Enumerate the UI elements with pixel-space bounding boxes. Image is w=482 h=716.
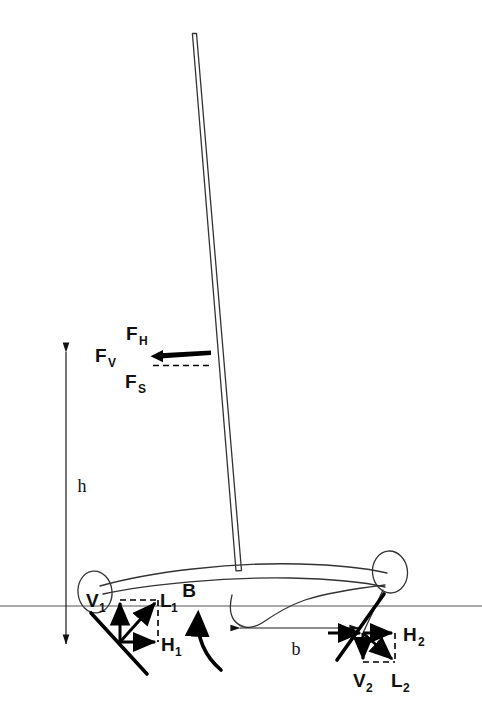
sail-force-shaft [160, 351, 211, 359]
force-h-label: F [126, 323, 138, 344]
force-h-sublabel: H [139, 334, 148, 348]
right-pontoon [370, 549, 409, 594]
mast [192, 33, 241, 571]
sail-force-group: F H F V F S [95, 323, 211, 396]
buoyancy-label: B [182, 580, 196, 601]
l2-label: L [391, 670, 403, 691]
force-v-sublabel: V [108, 356, 116, 370]
v2-label-group: V 2 [353, 670, 373, 695]
force-diagram-svg: h b F H F V F [0, 0, 482, 716]
force-v-label: F [95, 345, 107, 366]
mast-group [192, 33, 241, 571]
vector-l1 [120, 603, 155, 642]
force-v-label-group: F V [95, 345, 116, 370]
h1-label: H [161, 634, 175, 655]
hull-group [76, 549, 410, 633]
h2-label: H [403, 624, 417, 645]
v2-label: V [353, 670, 366, 691]
vector-l2 [363, 633, 392, 659]
right-resultant-line [337, 594, 384, 660]
l2-sublabel: 2 [403, 681, 410, 695]
left-vector-group: V 1 L 1 H 1 [86, 590, 182, 674]
force-s-label: F [125, 371, 137, 392]
buoyancy-curved-arrow [198, 617, 221, 670]
l1-label-group: L 1 [160, 590, 178, 615]
h1-sublabel: 1 [175, 645, 182, 659]
buoyancy-group: B [182, 580, 221, 670]
v1-sublabel: 1 [99, 601, 106, 615]
deck-sheer-line [100, 564, 387, 586]
v2-sublabel: 2 [366, 681, 373, 695]
h1-label-group: H 1 [161, 634, 182, 659]
beam-dimension-label: b [292, 639, 301, 659]
height-dimension-group: h [66, 352, 87, 644]
figure-root: h b F H F V F [0, 0, 482, 716]
right-vector-group: H 2 V 2 L 2 [328, 594, 425, 695]
height-dimension-label: h [78, 476, 87, 496]
force-s-label-group: F S [125, 371, 146, 396]
v1-label: V [86, 590, 99, 611]
h2-sublabel: 2 [418, 635, 425, 649]
l1-sublabel: 1 [171, 601, 178, 615]
force-h-label-group: F H [126, 323, 148, 348]
l2-label-group: L 2 [391, 670, 410, 695]
sail-force-arrowhead-icon [151, 350, 164, 362]
force-s-sublabel: S [138, 382, 146, 396]
h2-label-group: H 2 [403, 624, 425, 649]
